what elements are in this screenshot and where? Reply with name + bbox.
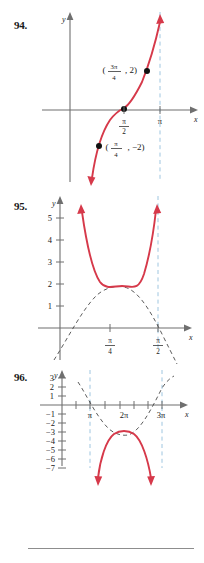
x-tick-label-3pi: 3π [157,410,166,420]
x-tick-label-pi: π [88,410,93,420]
svg-text:π: π [122,118,126,126]
graph-94: y x π π [34,0,204,188]
problem-number-94: 94. [14,19,27,31]
curve-tangent-94 [92,22,160,178]
svg-text:, 2): , 2) [125,65,137,75]
svg-text:3: 3 [50,373,54,383]
svg-text:π: π [114,140,118,147]
point-dot-lower [96,143,102,149]
x-tick-label-pi-over-2: π 2 [119,118,129,136]
y-axis-arrow-icon [57,196,64,204]
svg-text:, −2): , −2) [127,142,144,152]
svg-text:2: 2 [156,348,160,356]
problem-panel-95: 95. y x 1 2 3 [0,188,204,368]
svg-text:4: 4 [114,151,118,158]
svg-text:1: 1 [50,391,54,401]
y-tick-group: 1 2 3 4 5 [48,213,64,311]
curve-arrow-left-down-icon [94,476,102,486]
x-axis-arrow-icon [180,402,188,409]
y-axis-arrow-icon [67,12,74,20]
y-tick-group-negative: −1 −2 −3 −4 −5 −6 −7 [46,409,66,473]
x-axis-label: x [188,333,193,342]
x-tick-label-pi: π [158,116,163,126]
curve-arrow-top-icon [156,14,164,24]
curve-secant-95 [82,210,156,287]
point-label-lower: ( π 4 , −2) [106,140,145,158]
section-divider [28,548,194,549]
guide-curve-parabola [78,376,174,435]
svg-text:2: 2 [122,128,126,136]
graph-96: y x 1 2 3 −1 [34,368,204,538]
x-axis-arrow-icon [190,107,198,114]
curve-arrow-right-down-icon [147,476,155,486]
y-axis-label: y [61,15,66,24]
x-axis-arrow-icon [184,325,192,332]
textbook-figure-page: 94. y x π [0,0,204,563]
problem-number-96: 96. [14,371,27,383]
point-label-upper: ( 3π 4 , 2) [103,63,138,81]
svg-text:2: 2 [50,382,54,392]
x-axis-label: x [184,410,189,419]
problem-number-95: 95. [14,200,27,212]
curve-arrow-right-icon [153,204,161,214]
svg-text:−7: −7 [46,463,55,473]
svg-text:3: 3 [48,257,52,267]
svg-text:(: ( [103,65,106,75]
svg-text:(: ( [106,142,109,152]
svg-text:π: π [108,337,112,345]
curve-arch-96 [98,431,151,478]
problem-panel-96: 96. y x 1 2 [0,368,204,538]
svg-text:π: π [156,337,160,345]
x-tick-label-2pi: 2π [120,410,129,420]
svg-text:2: 2 [48,279,52,289]
point-dot-upper [144,68,150,74]
svg-text:3π: 3π [111,63,118,70]
y-axis-arrow-icon [59,370,66,378]
curve-arrow-left-icon [77,204,85,214]
x-tick-label-pi-over-4: π 4 [105,337,115,356]
svg-text:1: 1 [48,301,52,311]
graph-95: y x 1 2 3 4 5 [34,188,204,368]
y-axis-label: y [51,199,56,208]
curve-arrow-bottom-icon [87,176,95,186]
problem-panel-94: 94. y x π [0,0,204,188]
svg-text:4: 4 [108,348,112,356]
svg-text:4: 4 [48,235,53,245]
svg-text:4: 4 [112,74,116,81]
x-axis-label: x [193,115,198,124]
svg-text:5: 5 [48,213,52,223]
